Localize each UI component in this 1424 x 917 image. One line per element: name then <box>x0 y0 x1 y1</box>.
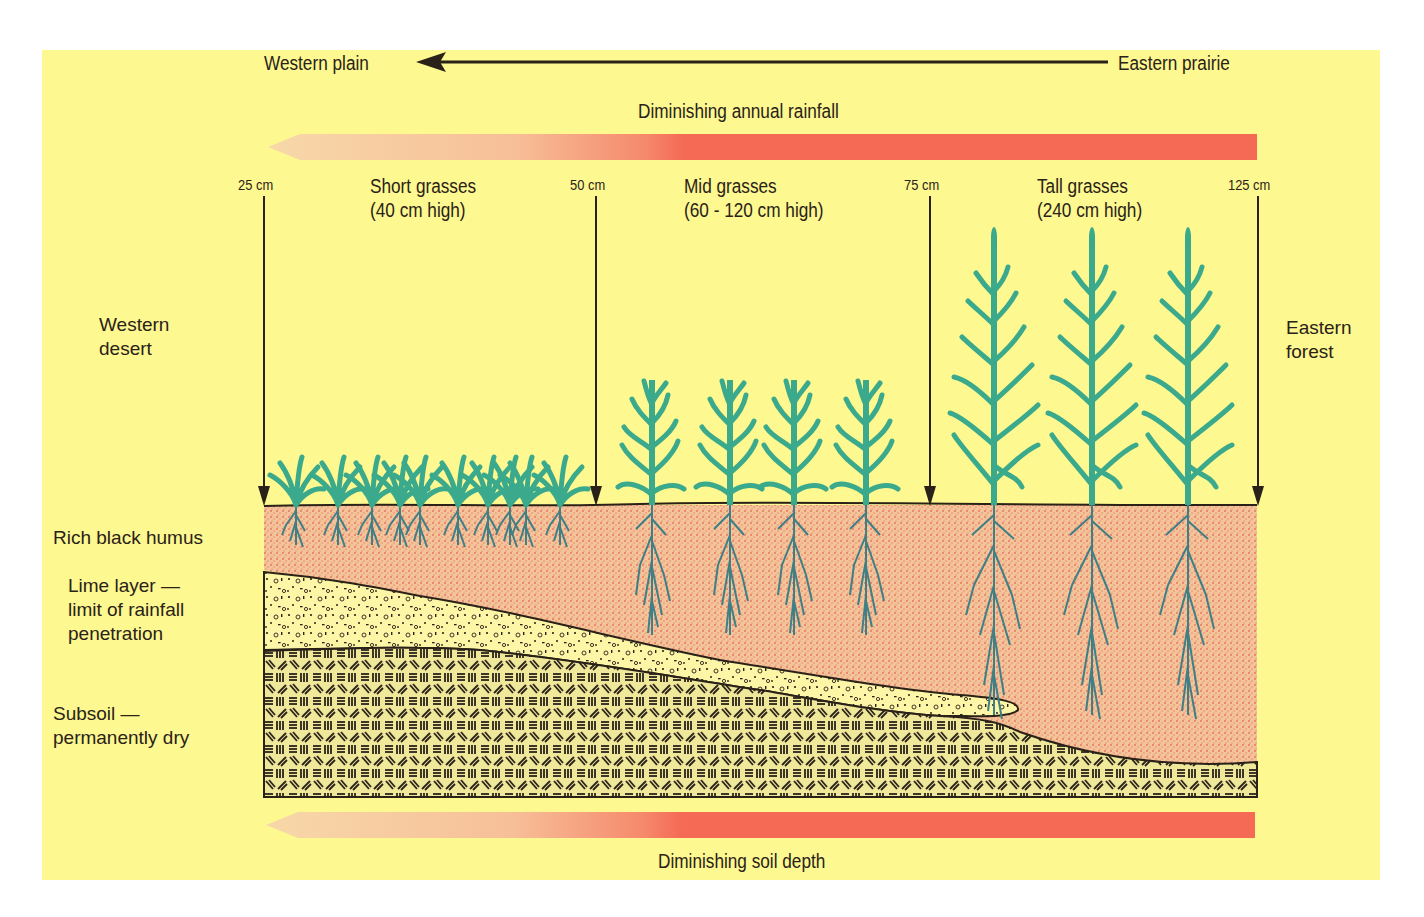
soil-depth-bar-label: Diminishing soil depth <box>658 849 825 873</box>
rainfall-marker-25: 25 cm <box>238 176 273 194</box>
western-desert-label: Western desert <box>99 313 169 361</box>
arrow-down-icon <box>1252 486 1264 506</box>
eastern-forest-label: Eastern forest <box>1286 316 1351 364</box>
rainfall-bar-label: Diminishing annual rainfall <box>638 99 839 123</box>
short-grasses-label: Short grasses <box>370 174 476 198</box>
mid-grasses-label: Mid grasses <box>684 174 777 198</box>
short-grasses-height: (40 cm high) <box>370 198 466 222</box>
subsoil-layer-label: Subsoil — permanently dry <box>53 702 189 750</box>
soil-depth-gradient-bar <box>266 812 1255 838</box>
rainfall-marker-50: 50 cm <box>570 176 605 194</box>
western-plain-label: Western plain <box>264 51 369 75</box>
tall-grasses-height: (240 cm high) <box>1037 198 1142 222</box>
arrow-down-icon <box>258 486 270 506</box>
mid-grasses-height: (60 - 120 cm high) <box>684 198 824 222</box>
soil-profile <box>264 503 1257 797</box>
tall-grasses-label: Tall grasses <box>1037 174 1128 198</box>
diagram-artwork <box>0 0 1424 917</box>
rainfall-marker-75: 75 cm <box>904 176 939 194</box>
humus-layer-label: Rich black humus <box>53 526 203 550</box>
lime-layer-label: Lime layer — limit of rainfall penetrati… <box>68 574 184 646</box>
west-east-arrow <box>416 52 1108 72</box>
eastern-prairie-label: Eastern prairie <box>1118 51 1230 75</box>
rainfall-marker-125: 125 cm <box>1228 176 1270 194</box>
arrow-down-icon <box>590 486 602 506</box>
rainfall-gradient-bar <box>268 134 1257 160</box>
